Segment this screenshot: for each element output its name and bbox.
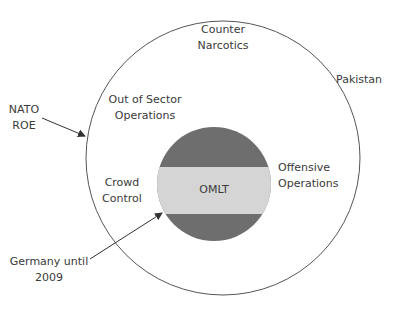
nato-roe-arrow xyxy=(42,118,85,136)
omlt-label: OMLT xyxy=(184,182,244,198)
crowd-control-label: Crowd Control xyxy=(100,175,144,207)
pakistan-label: Pakistan xyxy=(336,72,380,88)
nato-roe-label: NATO ROE xyxy=(4,102,44,134)
out-of-sector-label: Out of Sector Operations xyxy=(100,92,190,124)
counter-narcotics-label: Counter Narcotics xyxy=(187,22,259,54)
germany-label: Germany until 2009 xyxy=(6,254,92,286)
offensive-operations-label: Offensive Operations xyxy=(278,160,338,192)
